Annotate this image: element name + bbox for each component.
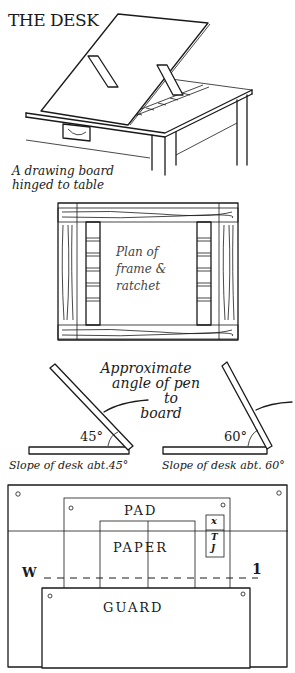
slope-caption-60: Slope of desk abt. 60° [162, 459, 285, 472]
angle-label-60: 60° [224, 429, 247, 444]
drawing-board [41, 14, 208, 125]
side-box-t: T [211, 532, 218, 542]
pen-angle-note-line-4: board [86, 406, 206, 421]
pen-angle-note-line-1: Approximate [86, 361, 206, 376]
plan-label-line-2: frame & [116, 261, 166, 278]
pen-angle-note: Approximate angle of pen to board [86, 361, 206, 421]
pen-angle-note-line-2: angle of pen [86, 376, 206, 391]
page-title: THE DESK [8, 10, 98, 30]
pen-angle-pointer-right [256, 402, 292, 410]
plan-label-line-1: Plan of [116, 244, 166, 261]
desk-caption-line-1: A drawing board [12, 164, 114, 178]
writing-line-left-marker: W [22, 565, 37, 580]
angle-label-45: 45° [80, 429, 103, 444]
plan-label: Plan of frame & ratchet [116, 244, 166, 295]
paper-label: PAPER [113, 540, 168, 555]
pen-angle-note-line-3: to [86, 391, 206, 406]
side-box-x: x [211, 515, 217, 526]
pad-label: PAD [124, 503, 157, 518]
desk-drawing [26, 14, 252, 175]
illustration-canvas [0, 0, 295, 673]
desk-caption: A drawing board hinged to table [12, 164, 114, 192]
side-box-j: J [211, 543, 215, 553]
guard-label: GUARD [103, 600, 164, 615]
desk-caption-line-2: hinged to table [12, 178, 114, 192]
slope-caption-45: Slope of desk abt.45° [9, 459, 128, 472]
plan-label-line-3: ratchet [116, 278, 166, 295]
writing-line-right-marker: 1 [252, 561, 262, 577]
